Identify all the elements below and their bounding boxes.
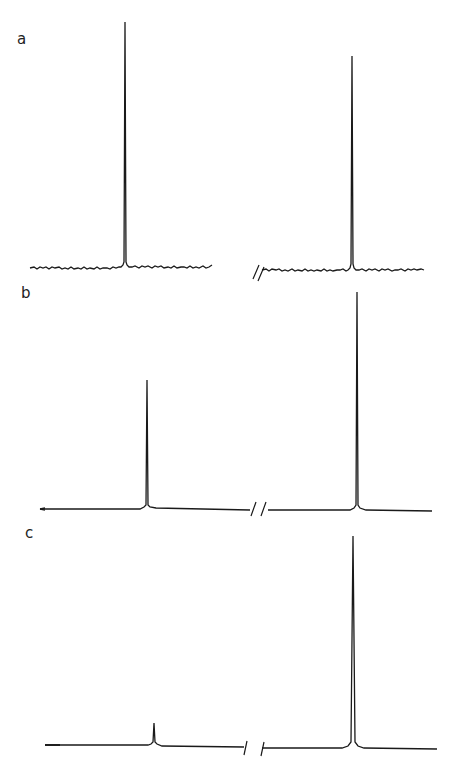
panel-a-trace bbox=[30, 22, 424, 281]
panel-c-trace bbox=[45, 536, 437, 756]
spectra-plot bbox=[0, 0, 453, 770]
panel-b-trace bbox=[40, 292, 432, 516]
